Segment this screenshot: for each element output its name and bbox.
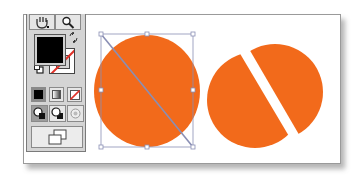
- draw-normal-icon: [33, 107, 46, 120]
- handle-top-right[interactable]: [191, 32, 195, 36]
- screen-mode-button[interactable]: [31, 126, 83, 148]
- draw-behind-button[interactable]: [49, 105, 66, 122]
- default-colors-icon[interactable]: [34, 64, 44, 74]
- hand-tool-button[interactable]: [29, 14, 55, 30]
- top-tools-row: [29, 14, 81, 30]
- none-icon: [70, 90, 80, 100]
- handle-top-left[interactable]: [99, 32, 103, 36]
- draw-normal-button[interactable]: [31, 105, 48, 122]
- tools-panel: [26, 14, 86, 152]
- screen-mode-icon: [46, 129, 68, 145]
- handle-middle-right[interactable]: [191, 88, 195, 92]
- gradient-icon: [52, 90, 61, 99]
- none-button[interactable]: [67, 87, 82, 102]
- handle-middle-left[interactable]: [99, 88, 103, 92]
- handle-bottom-left[interactable]: [99, 145, 103, 149]
- draw-inside-icon: [69, 107, 82, 120]
- handle-bottom-right[interactable]: [191, 145, 195, 149]
- draw-mode-row: [31, 105, 84, 122]
- draw-inside-button[interactable]: [67, 105, 84, 122]
- handle-bottom-middle[interactable]: [145, 145, 149, 149]
- swap-arrows-icon[interactable]: [68, 32, 79, 43]
- solid-color-icon: [34, 90, 43, 99]
- draw-behind-icon: [51, 107, 64, 120]
- hand-icon: [34, 16, 50, 29]
- gradient-button[interactable]: [49, 87, 64, 102]
- fill-swatch[interactable]: [35, 35, 65, 65]
- color-mode-row: [31, 87, 82, 102]
- magnifier-icon: [61, 16, 75, 29]
- color-button[interactable]: [31, 87, 46, 102]
- handle-top-middle[interactable]: [145, 32, 149, 36]
- zoom-tool-button[interactable]: [55, 14, 81, 30]
